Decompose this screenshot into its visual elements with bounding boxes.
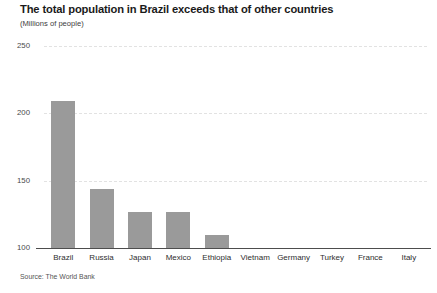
bar <box>128 212 152 248</box>
x-axis-tick-label: Turkey <box>313 252 351 263</box>
y-axis-tick-label: 150 <box>17 176 41 185</box>
chart-figure: The total population in Brazil exceeds t… <box>0 0 437 293</box>
x-axis-tick-label: France <box>351 252 389 263</box>
x-axis-tick-label: Ethiopia <box>198 252 236 263</box>
gridline <box>44 113 427 114</box>
x-axis-line <box>36 248 431 249</box>
y-axis-tick-label: 200 <box>17 108 41 117</box>
y-axis-tick-label: 250 <box>17 41 41 50</box>
x-axis-tick-label: Vietnam <box>236 252 274 263</box>
x-axis-tick-label: Germany <box>274 252 312 263</box>
bar <box>205 235 229 248</box>
bar <box>51 101 75 248</box>
bar <box>166 212 190 248</box>
gridline <box>44 46 427 47</box>
bar <box>90 189 114 248</box>
plot-area: 250200150100 BrazilRussiaJapanMexicoEthi… <box>0 0 437 293</box>
source-note: Source: The World Bank <box>20 272 95 281</box>
x-axis-tick-label: Italy <box>390 252 428 263</box>
x-axis-tick-label: Russia <box>82 252 120 263</box>
x-axis-tick-label: Brazil <box>44 252 82 263</box>
x-axis-tick-label: Japan <box>121 252 159 263</box>
x-axis-tick-label: Mexico <box>159 252 197 263</box>
gridline <box>44 181 427 182</box>
